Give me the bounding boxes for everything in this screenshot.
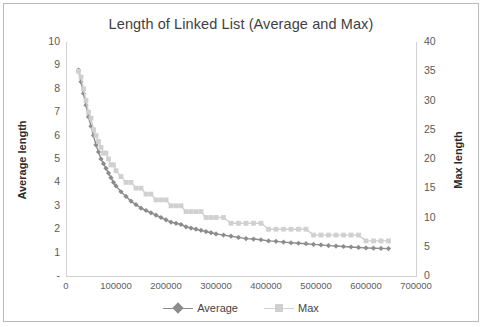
x-tick-label: 700000 (386, 280, 446, 291)
y-right-tick-label: 40 (424, 35, 454, 47)
y-right-tick-label: 35 (424, 64, 454, 76)
chart-frame: Length of Linked List (Average and Max) … (3, 3, 479, 322)
y-left-tick-label: 1 (36, 246, 60, 258)
y-right-tick-label: 25 (424, 123, 454, 135)
y-left-tick-label: 9 (36, 58, 60, 70)
y-left-tick-label: 4 (36, 175, 60, 187)
y-right-tick-label: 15 (424, 181, 454, 193)
legend-swatch-average (163, 303, 193, 313)
series-max (76, 69, 391, 243)
y-left-tick-label: 2 (36, 222, 60, 234)
legend-label-average: Average (197, 302, 238, 314)
y-right-tick-label: 20 (424, 152, 454, 164)
y-right-tick-label: 30 (424, 94, 454, 106)
legend-item-max[interactable]: Max (264, 302, 319, 314)
y-left-tick-label: 3 (36, 199, 60, 211)
y-left-tick-label: 5 (36, 152, 60, 164)
y-left-tick-label: 10 (36, 35, 60, 47)
chart-title: Length of Linked List (Average and Max) (4, 16, 478, 32)
y-axis-left-title: Average length (16, 120, 28, 199)
legend-swatch-max (264, 303, 294, 313)
plot-baseline (66, 276, 417, 277)
plot-area (66, 42, 416, 276)
series-canvas (66, 42, 416, 276)
legend-item-average[interactable]: Average (163, 302, 238, 314)
legend-label-max: Max (298, 302, 319, 314)
y-right-tick-label: 10 (424, 211, 454, 223)
y-right-tick-label: 5 (424, 240, 454, 252)
y-left-tick-label: 7 (36, 105, 60, 117)
chart-legend: Average Max (4, 302, 478, 314)
plot-right-border (416, 42, 417, 277)
y-left-tick-label: 6 (36, 129, 60, 141)
y-left-tick-label: 8 (36, 82, 60, 94)
